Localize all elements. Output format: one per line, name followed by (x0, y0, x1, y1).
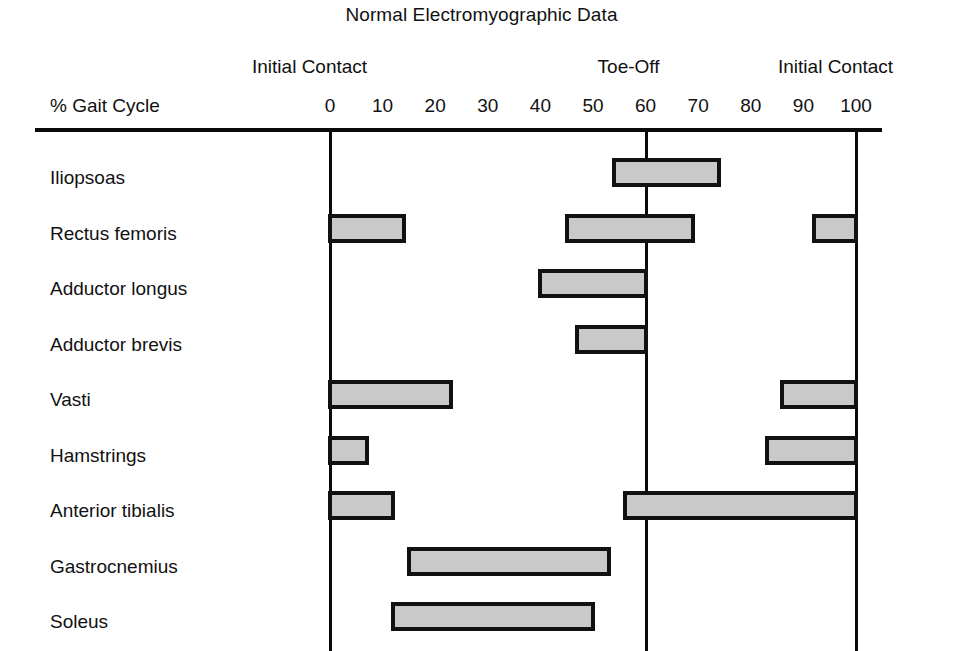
emg-bar-vasti-0 (328, 380, 453, 409)
emg-bar-anterior-tibialis-1 (623, 491, 858, 520)
x-tick-label-80: 80 (740, 95, 761, 117)
x-tick-label-20: 20 (425, 95, 446, 117)
x-tick-label-0: 0 (325, 95, 336, 117)
emg-bar-iliopsoas-0 (612, 158, 721, 187)
x-tick-label-60: 60 (635, 95, 656, 117)
muscle-label-adductor-longus: Adductor longus (50, 278, 187, 300)
muscle-label-soleus: Soleus (50, 611, 108, 633)
x-axis-caption: % Gait Cycle (50, 95, 160, 117)
emg-bar-rectus-femoris-1 (565, 214, 695, 243)
emg-bar-rectus-femoris-2 (812, 214, 858, 243)
emg-bar-gastrocnemius-0 (407, 547, 611, 576)
page-title: Normal Electromyographic Data (0, 4, 963, 26)
x-tick-label-10: 10 (372, 95, 393, 117)
emg-chart: Normal Electromyographic Data Initial Co… (0, 0, 963, 651)
x-axis-line (35, 128, 882, 132)
x-tick-label-50: 50 (582, 95, 603, 117)
event-marker-label-0: Initial Contact (252, 56, 367, 78)
emg-bar-anterior-tibialis-0 (328, 491, 395, 520)
muscle-label-iliopsoas: Iliopsoas (50, 167, 125, 189)
event-marker-label-2: Initial Contact (778, 56, 893, 78)
muscle-label-hamstrings: Hamstrings (50, 445, 146, 467)
muscle-label-vasti: Vasti (50, 389, 91, 411)
muscle-label-adductor-brevis: Adductor brevis (50, 334, 182, 356)
x-tick-label-30: 30 (477, 95, 498, 117)
emg-bar-adductor-longus-0 (538, 269, 647, 298)
muscle-label-anterior-tibialis: Anterior tibialis (50, 500, 175, 522)
emg-bar-hamstrings-0 (328, 436, 369, 465)
muscle-label-gastrocnemius: Gastrocnemius (50, 556, 178, 578)
emg-bar-vasti-1 (780, 380, 858, 409)
emg-bar-soleus-0 (391, 602, 595, 631)
event-marker-label-1: Toe-Off (598, 56, 660, 78)
emg-bar-hamstrings-1 (765, 436, 858, 465)
emg-bar-rectus-femoris-0 (328, 214, 406, 243)
muscle-label-rectus-femoris: Rectus femoris (50, 223, 177, 245)
grid-line-60pct (645, 130, 648, 651)
x-tick-label-40: 40 (530, 95, 551, 117)
emg-bar-adductor-brevis-0 (575, 325, 647, 354)
x-tick-label-100: 100 (840, 95, 872, 117)
x-tick-label-90: 90 (793, 95, 814, 117)
x-tick-label-70: 70 (688, 95, 709, 117)
